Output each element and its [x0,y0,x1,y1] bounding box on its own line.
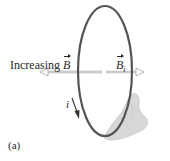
induced-field-label: Bi [116,58,126,74]
vector-bi-symbol: B [116,58,123,73]
current-arrow-icon [72,98,80,119]
vector-b-symbol: B [63,58,70,73]
right-arrowhead-icon [136,68,144,76]
panel-label: (a) [8,139,20,151]
right-hand-icon [104,93,148,140]
external-field-label: Increasing B [10,58,70,73]
diagram-graphics [0,0,170,161]
lenz-law-diagram: Increasing B Bi i (a) [0,0,170,161]
current-label: i [66,98,69,110]
